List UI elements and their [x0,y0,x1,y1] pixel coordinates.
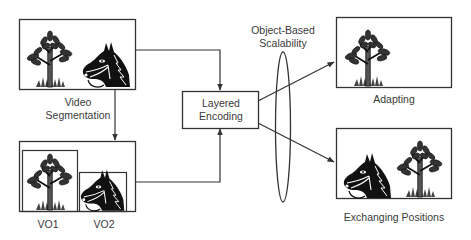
horse-icon [83,42,130,87]
arrow-encoder-to-adapting [258,62,334,101]
label-line: Scalability [243,37,323,50]
vo1-label: VO1 [30,218,66,231]
vo2-label: VO2 [86,218,122,231]
layered-encoding-label: Layered Encoding [183,97,259,123]
vo2-box [80,169,127,211]
horse-icon [81,169,124,210]
arrow-frame-to-encoder [136,50,220,90]
label-line: Video [40,96,116,109]
label-line: Segmentation [40,109,116,122]
tree-icon [26,154,72,210]
label-line: Layered [183,97,259,110]
object-based-scalability-label: Object-Based Scalability [243,24,323,50]
vo1-box [23,151,78,212]
horse-icon [344,153,391,198]
exchanging-positions-label: Exchanging Positions [336,211,452,224]
label-line: Encoding [183,110,259,123]
segmented-objects-frame [20,142,136,212]
tree-icon [396,141,442,197]
scalability-ellipse [276,52,291,202]
tree-icon [344,30,390,86]
arrow-encoder-to-exchanging [258,123,334,162]
exchanging-positions-frame [337,129,452,199]
tree-icon [26,31,72,87]
adapting-frame [337,18,452,88]
video-segmentation-label: Video Segmentation [40,96,116,122]
source-frame [20,20,136,90]
label-line: Object-Based [243,24,323,37]
arrow-objects-to-encoder [136,129,220,182]
adapting-label: Adapting [356,93,432,106]
diagram-canvas: Video Segmentation VO1 VO2 Layered Encod… [0,0,471,240]
